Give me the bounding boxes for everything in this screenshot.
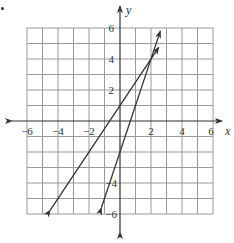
coordinate-plane: −6 −4 −2 2 4 6 6 4 2 −4 −6 x y [0,0,234,243]
y-tick-neg6: −6 [105,208,117,220]
y-tick-4: 4 [109,53,115,65]
x-tick-4: 4 [179,125,185,137]
y-tick-2: 2 [109,84,115,96]
y-axis-label: y [125,3,132,17]
x-tick-neg2: −2 [83,125,95,137]
y-tick-6: 6 [109,22,115,34]
x-tick-2: 2 [148,125,154,137]
x-tick-6: 6 [208,125,214,137]
x-axis-label: x [224,124,231,138]
x-tick-neg6: −6 [21,125,33,137]
x-tick-neg4: −4 [52,125,64,137]
